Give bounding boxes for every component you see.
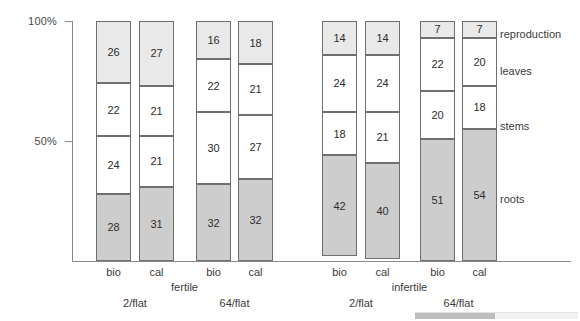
- bar-group-fertile-2flat-cal[interactable]: 27 21 21 31: [139, 21, 174, 261]
- bar-group-fertile-64flat-cal[interactable]: 18 21 27 32: [238, 21, 273, 261]
- bar-group-infertile-2flat-cal[interactable]: 14 24 21 40: [365, 21, 400, 261]
- series-label-stems: stems: [500, 120, 529, 132]
- bar-segment-reproduction: 14: [322, 21, 357, 55]
- series-label-reproduction: reproduction: [500, 28, 561, 40]
- x-axis-subgroup-label-64flat-2: 64/flat: [420, 297, 497, 309]
- x-axis-label-cal-4: cal: [462, 266, 497, 278]
- bar-segment-leaves: 21: [139, 86, 174, 136]
- x-axis-label-bio-2: bio: [196, 266, 231, 278]
- x-axis-label-bio-1: bio: [96, 266, 131, 278]
- x-axis-label-cal-2: cal: [238, 266, 273, 278]
- bar-segment-stems: 18: [322, 112, 357, 155]
- series-label-roots: roots: [500, 193, 524, 205]
- bar-segment-leaves: 20: [462, 38, 497, 86]
- bar-segment-reproduction: 14: [365, 21, 400, 55]
- bar-segment-stems: 24: [96, 136, 131, 194]
- x-axis-group-label-infertile: infertile: [322, 281, 497, 293]
- bar-segment-roots: 54: [462, 129, 497, 261]
- bar-segment-leaves: 21: [238, 64, 273, 114]
- bar-segment-stems: 21: [139, 136, 174, 186]
- bar-group-fertile-64flat-bio[interactable]: 16 22 30 32: [196, 21, 231, 261]
- bar-segment-roots: 28: [96, 194, 131, 261]
- bar-segment-stems: 21: [365, 112, 400, 162]
- bar-segment-reproduction: 7: [462, 21, 497, 38]
- bar-segment-leaves: 22: [420, 38, 455, 91]
- bar-segment-leaves: 24: [322, 55, 357, 113]
- bar-segment-roots: 42: [322, 155, 357, 256]
- bar-segment-leaves: 22: [196, 59, 231, 112]
- horizontal-scrollbar-track[interactable]: [415, 312, 578, 319]
- bar-segment-reproduction: 27: [139, 21, 174, 86]
- bar-segment-reproduction: 26: [96, 21, 131, 83]
- x-axis-label-bio-3: bio: [322, 266, 357, 278]
- bar-segment-reproduction: 16: [196, 21, 231, 59]
- bar-segment-roots: 40: [365, 163, 400, 259]
- bar-segment-stems: 18: [462, 86, 497, 129]
- y-axis-tick-label-50: 50%: [0, 135, 61, 147]
- x-axis-line: [72, 261, 571, 262]
- x-axis-subgroup-label-2flat-1: 2/flat: [96, 297, 174, 309]
- y-axis-tick-label-100: 100%: [0, 15, 61, 27]
- bar-segment-roots: 31: [139, 187, 174, 261]
- bar-group-infertile-64flat-bio[interactable]: 7 22 20 51: [420, 21, 455, 261]
- bar-segment-stems: 20: [420, 91, 455, 139]
- x-axis-label-cal-3: cal: [365, 266, 400, 278]
- bar-segment-roots: 32: [196, 184, 231, 261]
- y-axis-line: [72, 21, 73, 262]
- bar-segment-roots: 51: [420, 139, 455, 261]
- horizontal-scrollbar-thumb[interactable]: [415, 313, 495, 319]
- y-axis-tick-50: [65, 141, 72, 142]
- stacked-bar-chart: 100% 50% 26 22 24 28 27 21 21 31 16 22 3…: [0, 0, 580, 321]
- bar-segment-stems: 30: [196, 112, 231, 184]
- bar-segment-stems: 27: [238, 115, 273, 180]
- bar-segment-reproduction: 7: [420, 21, 455, 38]
- x-axis-label-bio-4: bio: [420, 266, 455, 278]
- bar-segment-roots: 32: [238, 179, 273, 261]
- x-axis-label-cal-1: cal: [139, 266, 174, 278]
- bar-segment-reproduction: 18: [238, 21, 273, 64]
- bar-segment-leaves: 22: [96, 83, 131, 136]
- x-axis-subgroup-label-2flat-2: 2/flat: [322, 297, 400, 309]
- series-label-leaves: leaves: [500, 65, 532, 77]
- bar-segment-leaves: 24: [365, 55, 400, 113]
- x-axis-subgroup-label-64flat-1: 64/flat: [196, 297, 273, 309]
- bar-group-infertile-2flat-bio[interactable]: 14 24 18 42: [322, 21, 357, 261]
- x-axis-group-label-fertile: fertile: [96, 281, 273, 293]
- bar-group-fertile-2flat-bio[interactable]: 26 22 24 28: [96, 21, 131, 261]
- bar-group-infertile-64flat-cal[interactable]: 7 20 18 54: [462, 21, 497, 261]
- y-axis-tick-100: [65, 21, 72, 22]
